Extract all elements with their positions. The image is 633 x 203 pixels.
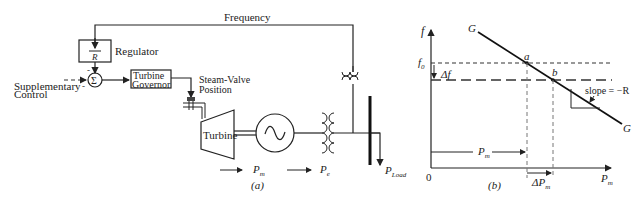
y-axis-label: f (421, 24, 426, 38)
x-axis-label: Pm (600, 172, 613, 187)
summer-symbol: Σ (91, 75, 97, 86)
steam-pipe-path-2 (199, 107, 202, 119)
point-a-label: a (524, 50, 530, 62)
pm-label: Pm (252, 163, 265, 178)
pm-chart-label: Pm (477, 145, 490, 160)
line-label-bottom: G (623, 122, 631, 134)
load-power-label: PLoad (384, 164, 407, 179)
governor-to-valve-arrow (171, 78, 191, 97)
slope-label: slope = −R (585, 85, 629, 96)
droop-line (478, 32, 622, 124)
point-b-label: b (552, 66, 558, 78)
caption-b: (b) (488, 179, 501, 192)
step-up-transformer-icon (322, 113, 334, 153)
block-diagram-a: Frequency R Regulator Σ - - Supplementar… (14, 11, 407, 192)
steam-valve-line2: Position (199, 84, 232, 95)
frequency-sensor-transformer-icon (342, 66, 358, 80)
diagram-canvas: Frequency R Regulator Σ - - Supplementar… (0, 0, 633, 203)
caption-a: (a) (251, 179, 264, 192)
turbine-label: Turbine (203, 129, 238, 141)
summer-sign-top: - (87, 65, 90, 75)
delta-pm-label: ΔPm (531, 176, 550, 191)
pe-label: Pe (319, 163, 330, 178)
slope-pointer-arrow (590, 96, 594, 102)
droop-chart-b: f 0 Pm f0 Δf G G a b slope = −R Pm ΔP (418, 22, 631, 192)
governor-label-line2: Governor (132, 79, 171, 90)
summer-sign-left: - (82, 81, 85, 91)
supplementary-label-line2: Control (14, 88, 48, 100)
f0-label: f0 (418, 56, 425, 71)
frequency-label: Frequency (224, 11, 271, 23)
line-label-top: G (468, 22, 476, 34)
governor-diagram: Frequency R Regulator Σ - - Supplementar… (0, 0, 633, 203)
regulator-denominator: R (91, 52, 98, 62)
steam-valve-icon (187, 97, 195, 101)
origin-label: 0 (426, 171, 432, 183)
ac-sine-icon (265, 126, 285, 139)
delta-f-label: Δf (440, 68, 452, 80)
regulator-label: Regulator (115, 45, 159, 57)
